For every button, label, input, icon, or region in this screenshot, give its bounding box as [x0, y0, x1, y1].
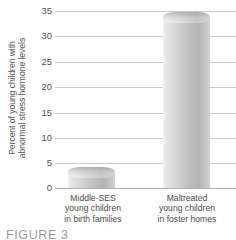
y-tick-label-0: 0 [34, 183, 52, 192]
x-category-label-middle-ses-line-3: in birth families [53, 214, 133, 224]
x-category-label-middle-ses-line-1: Middle-SES [53, 193, 133, 203]
y-tick-label-35: 35 [34, 6, 52, 15]
figure-container: Percent of young children with abnormal … [0, 0, 236, 240]
x-category-label-maltreated: Maltreated young children in foster home… [147, 193, 227, 224]
plot-area: 35 30 25 20 15 10 5 0 [34, 6, 236, 190]
y-tick-label-15: 15 [34, 108, 52, 117]
x-category-label-maltreated-line-3: in foster homes [147, 214, 227, 224]
y-tick-label-25: 25 [34, 57, 52, 66]
bar-cap-shade-maltreated [163, 12, 210, 23]
bar-middle-ses [68, 167, 115, 188]
y-axis-title: Percent of young children with abnormal … [0, 0, 34, 196]
gridline-0 [55, 188, 236, 189]
y-axis-title-line-2: abnormal stress hormone levels [17, 38, 27, 158]
x-category-label-maltreated-line-1: Maltreated [147, 193, 227, 203]
y-tick-label-20: 20 [34, 82, 52, 91]
y-tick-label-30: 30 [34, 31, 52, 40]
x-category-label-middle-ses-line-2: young children [53, 203, 133, 213]
x-category-label-middle-ses: Middle-SES young children in birth famil… [53, 193, 133, 224]
figure-caption: FIGURE 3 [6, 229, 68, 240]
y-axis-title-line-1: Percent of young children with [7, 41, 17, 155]
y-tick-label-5: 5 [34, 158, 52, 167]
x-category-label-maltreated-line-2: young children [147, 203, 227, 213]
bar-maltreated [163, 12, 210, 188]
bar-cap-shade-middle-ses [68, 167, 115, 178]
bar-body-maltreated [163, 17, 210, 188]
y-tick-label-10: 10 [34, 133, 52, 142]
